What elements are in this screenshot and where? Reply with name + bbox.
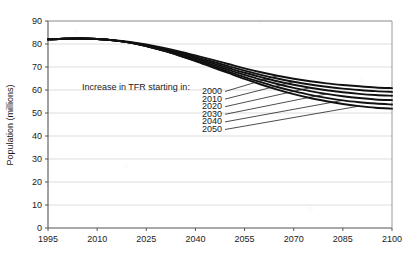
y-tick-label-80: 80	[32, 39, 42, 49]
y-tick-label-0: 0	[37, 223, 42, 233]
x-tick-label-2070: 2070	[284, 234, 304, 244]
y-tick-label-60: 60	[32, 85, 42, 95]
series-labels: 200020102020203020402050	[202, 86, 222, 134]
x-tick-label-2085: 2085	[333, 234, 353, 244]
y-tick-label-20: 20	[32, 177, 42, 187]
y-tick-label-50: 50	[32, 108, 42, 118]
x-tick-label-2055: 2055	[235, 234, 255, 244]
y-axis-ticks: 0102030405060708090	[32, 16, 48, 233]
x-tick-label-2040: 2040	[185, 234, 205, 244]
y-tick-label-10: 10	[32, 200, 42, 210]
y-axis-title: Population (millions)	[5, 84, 15, 165]
x-tick-label-2025: 2025	[136, 234, 156, 244]
leader-line-2030	[225, 94, 326, 114]
x-tick-label-2100: 2100	[382, 234, 402, 244]
legend-title: Increase in TFR starting in:	[82, 82, 190, 92]
chart-figure: 0102030405060708090 19952010202520402055…	[0, 0, 420, 268]
x-tick-label-1995: 1995	[38, 234, 58, 244]
y-tick-label-30: 30	[32, 154, 42, 164]
y-tick-label-90: 90	[32, 16, 42, 26]
leader-line-2020	[225, 88, 310, 107]
y-tick-label-40: 40	[32, 131, 42, 141]
x-axis-ticks: 19952010202520402055207020852100	[38, 228, 402, 244]
population-projection-chart: 0102030405060708090 19952010202520402055…	[0, 0, 420, 268]
series-label-2050: 2050	[202, 124, 222, 134]
x-tick-label-2010: 2010	[87, 234, 107, 244]
y-tick-label-70: 70	[32, 62, 42, 72]
leader-line-2000	[225, 76, 277, 92]
